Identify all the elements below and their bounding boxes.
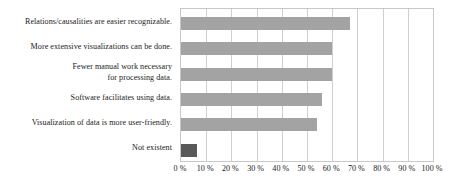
category-label: Fewer manual work necessary for processi…	[0, 62, 172, 82]
x-tick-label: 20 %	[222, 163, 239, 174]
x-tick-label: 40 %	[272, 163, 289, 174]
x-tick-label: 80 %	[373, 163, 390, 174]
gridline	[433, 9, 434, 161]
category-label: Visualization of data is more user-frien…	[0, 118, 172, 128]
bar	[181, 68, 332, 81]
x-tick-label: 100 %	[422, 163, 443, 174]
category-label: More extensive visualizations can be don…	[0, 42, 172, 52]
bars-layer	[181, 9, 433, 161]
x-tick-label: 60 %	[323, 163, 340, 174]
bar	[181, 42, 332, 55]
category-label-column: Relations/causalities are easier recogni…	[0, 8, 176, 160]
x-tick-label: 10 %	[197, 163, 214, 174]
x-tick-label: 50 %	[298, 163, 315, 174]
plot-area	[180, 8, 434, 162]
bar	[181, 17, 350, 30]
x-axis-tick-labels: 0 %10 %20 %30 %40 %50 %60 %70 %80 %90 %1…	[180, 163, 432, 179]
category-label: Software facilitates using data.	[0, 93, 172, 103]
bar	[181, 93, 322, 106]
bar	[181, 118, 317, 131]
category-label: Relations/causalities are easier recogni…	[0, 17, 172, 27]
x-tick-label: 0 %	[174, 163, 187, 174]
category-label: Not existent	[0, 143, 172, 153]
x-tick-label: 30 %	[247, 163, 264, 174]
horizontal-bar-chart: Relations/causalities are easier recogni…	[0, 0, 453, 195]
x-tick-label: 70 %	[348, 163, 365, 174]
bar	[181, 144, 197, 157]
x-tick-label: 90 %	[398, 163, 415, 174]
